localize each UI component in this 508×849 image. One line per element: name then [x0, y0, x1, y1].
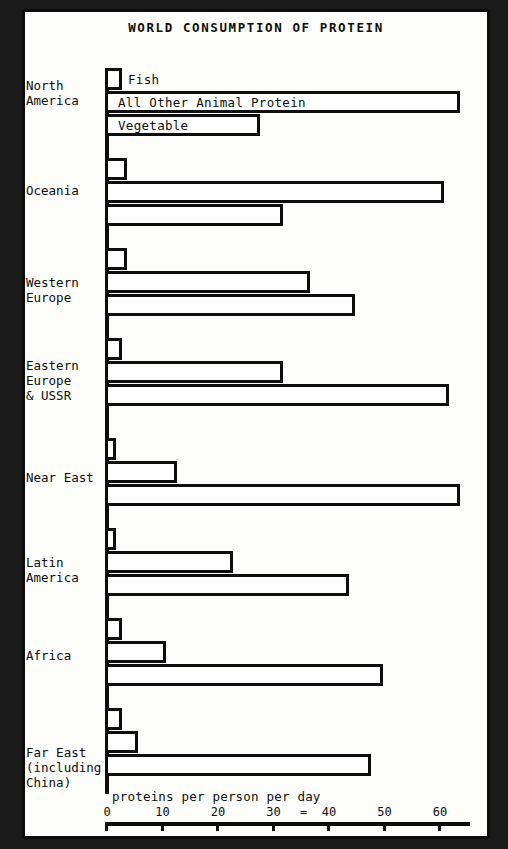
- axis-tick: [105, 822, 108, 831]
- bar: [105, 338, 122, 360]
- category-label: Near East: [26, 470, 104, 485]
- series-label-vegetable: Vegetable: [118, 118, 188, 133]
- bar: [105, 294, 355, 316]
- bar: [105, 248, 127, 270]
- bar: [105, 438, 116, 460]
- axis-tick: [216, 822, 219, 831]
- axis-tick: [327, 822, 330, 831]
- bar: [105, 528, 116, 550]
- axis-tick-label: 60: [433, 805, 447, 819]
- series-label-fish: Fish: [128, 72, 159, 87]
- bar: [105, 574, 349, 596]
- bar: [105, 158, 127, 180]
- axis-tick-label: 20: [211, 805, 225, 819]
- category-label: Latin America: [26, 555, 104, 585]
- axis-tick: [272, 822, 275, 831]
- axis-tick-label: 40: [322, 805, 336, 819]
- bar: [105, 754, 371, 776]
- axis-caption: proteins per person per day: [112, 789, 321, 804]
- bar: [105, 618, 122, 640]
- bar: [105, 68, 122, 90]
- bar: [105, 204, 283, 226]
- series-label-animal: All Other Animal Protein: [118, 95, 306, 110]
- bar: [105, 384, 449, 406]
- bar: [105, 361, 283, 383]
- category-label: Eastern Europe & USSR: [26, 358, 104, 403]
- category-label: Western Europe: [26, 275, 104, 305]
- axis-tick-label: 10: [155, 805, 169, 819]
- axis-tick: [438, 822, 441, 831]
- bar: [105, 731, 138, 753]
- axis-tick: [383, 822, 386, 831]
- bar: [105, 551, 233, 573]
- axis-tick: [161, 822, 164, 831]
- bar: [105, 181, 444, 203]
- category-label: Oceania: [26, 183, 104, 198]
- chart-page: WORLD CONSUMPTION OF PROTEIN 01020304050…: [0, 0, 508, 849]
- axis-tick-label: 50: [377, 805, 391, 819]
- bar: [105, 271, 310, 293]
- bar: [105, 461, 177, 483]
- axis-tick-label: 0: [103, 805, 110, 819]
- category-label: North America: [26, 78, 104, 108]
- plot-area: 0102030405060 North AmericaOceaniaWester…: [0, 0, 508, 849]
- axis-tick-label: 30: [266, 805, 280, 819]
- equals-artifact: =: [300, 805, 307, 819]
- bar: [105, 708, 122, 730]
- category-label: Far East (including China): [26, 745, 104, 790]
- bar: [105, 664, 383, 686]
- category-label: Africa: [26, 648, 104, 663]
- bar: [105, 484, 460, 506]
- bar: [105, 641, 166, 663]
